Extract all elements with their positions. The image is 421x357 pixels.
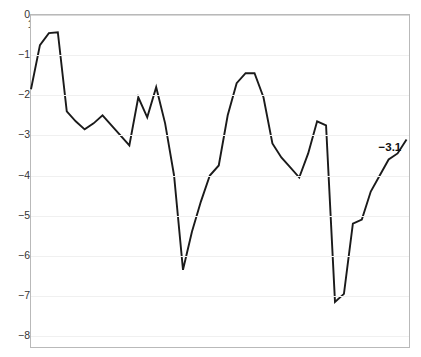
y-tick-label: −4 (4, 170, 30, 180)
plot-area (30, 14, 410, 348)
y-axis: 0−1−2−3−4−5−6−7−8 (0, 0, 30, 357)
gridline-y (31, 216, 409, 217)
y-tick-label: −3 (4, 129, 30, 139)
gridline-y (31, 296, 409, 297)
series-polyline (31, 32, 407, 302)
y-tick-label: −6 (4, 250, 30, 260)
gridline-y (31, 176, 409, 177)
y-tick-label: −8 (4, 330, 30, 340)
gridline-y (31, 55, 409, 56)
gridline-y (31, 135, 409, 136)
chart-container: 0−1−2−3−4−5−6−7−8 1978198219861990199419… (0, 0, 421, 357)
y-tick-label: 0 (4, 9, 30, 19)
gridline-y (31, 256, 409, 257)
gridline-y (31, 15, 409, 16)
y-tick-label: −5 (4, 210, 30, 220)
gridline-y (31, 95, 409, 96)
y-tick-label: −2 (4, 89, 30, 99)
y-tick-label: −1 (4, 49, 30, 59)
gridline-y (31, 336, 409, 337)
end-value-annotation: −3.1 (379, 141, 402, 153)
line-series (31, 15, 411, 349)
y-tick-label: −7 (4, 290, 30, 300)
